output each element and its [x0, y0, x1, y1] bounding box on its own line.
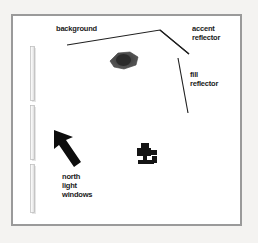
label-fill-reflector: fill reflector	[190, 70, 218, 88]
diagram-page: background accent reflector fill reflect…	[0, 0, 258, 243]
label-windows-line-2: light	[62, 181, 92, 190]
label-accent-reflector: accent reflector	[192, 24, 220, 42]
label-fill-line-2: reflector	[190, 79, 218, 88]
label-windows-line-1: north	[62, 172, 92, 181]
label-accent-line-1: accent	[192, 24, 220, 33]
label-windows-line-3: windows	[62, 190, 92, 199]
label-north-light-windows: north light windows	[62, 172, 92, 199]
diagram-frame	[11, 14, 242, 226]
label-fill-line-1: fill	[190, 70, 218, 79]
label-accent-line-2: reflector	[192, 33, 220, 42]
label-background: background	[56, 24, 97, 33]
